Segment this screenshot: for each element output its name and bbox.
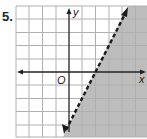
coordinate-graph: y x O xyxy=(0,0,147,139)
y-axis-label: y xyxy=(72,6,80,18)
y-axis-top-arrow-icon xyxy=(67,8,72,14)
x-axis-left-arrow-icon xyxy=(17,70,23,75)
x-axis-label: x xyxy=(138,73,145,85)
origin-label: O xyxy=(57,74,66,86)
